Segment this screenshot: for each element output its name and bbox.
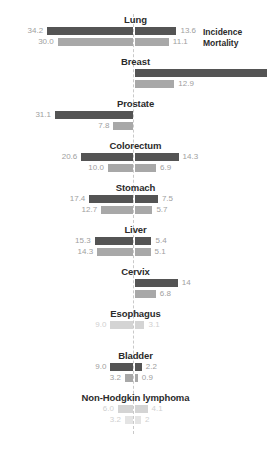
bar-bladder-inc-right bbox=[135, 363, 142, 371]
group-title-lung: Lung bbox=[0, 14, 271, 25]
value-label-esophagus-inc-right: 3.1 bbox=[148, 320, 159, 330]
value-label-colorectum-inc-left: 20.6 bbox=[19, 152, 77, 162]
bar-colorectum-mor-right bbox=[135, 164, 156, 172]
bar-liver-mor-left bbox=[97, 248, 133, 256]
bar-colorectum-inc-right bbox=[135, 153, 179, 161]
value-label-lung-mor-left: 30.0 bbox=[0, 37, 54, 47]
group-title-esophagus: Esophagus bbox=[0, 308, 271, 319]
bar-row-prostate-inc: 31.1 bbox=[0, 111, 271, 120]
bar-row-stomach-inc: 17.47.5 bbox=[0, 195, 271, 204]
bar-colorectum-mor-left bbox=[108, 164, 133, 172]
value-label-liver-inc-right: 5.4 bbox=[155, 236, 166, 246]
value-label-bladder-inc-right: 2.2 bbox=[146, 362, 157, 372]
value-label-colorectum-inc-right: 14.3 bbox=[183, 152, 199, 162]
bar-cervix-mor-right bbox=[135, 290, 156, 298]
value-label-nhl-mor-right: 2 bbox=[145, 415, 149, 425]
bar-colorectum-inc-left bbox=[81, 153, 133, 161]
value-label-bladder-inc-left: 9.0 bbox=[48, 362, 106, 372]
group-title-stomach: Stomach bbox=[0, 182, 271, 193]
bar-row-stomach-mor: 12.75.7 bbox=[0, 206, 271, 215]
bar-nhl-mor-left bbox=[125, 416, 133, 424]
bar-row-lung-mor: 30.011.1 bbox=[0, 38, 271, 47]
bar-row-colorectum-inc: 20.614.3 bbox=[0, 153, 271, 162]
diverging-bar-chart: Incidence Mortality Lung34.213.630.011.1… bbox=[0, 0, 271, 450]
bar-lung-inc-left bbox=[47, 27, 133, 35]
value-label-lung-inc-right: 13.6 bbox=[180, 26, 196, 36]
bar-row-bladder-inc: 9.02.2 bbox=[0, 363, 271, 372]
bar-lung-mor-right bbox=[135, 38, 169, 46]
value-label-stomach-inc-left: 17.4 bbox=[27, 194, 85, 204]
value-label-prostate-inc-left: 31.1 bbox=[0, 110, 51, 120]
bar-row-colorectum-mor: 10.06.9 bbox=[0, 164, 271, 173]
bar-row-breast-inc: 43.3 bbox=[0, 69, 271, 78]
bar-stomach-mor-left bbox=[101, 206, 133, 214]
value-label-bladder-mor-left: 3.2 bbox=[63, 373, 121, 383]
group-title-liver: Liver bbox=[0, 224, 271, 235]
bar-nhl-inc-right bbox=[135, 405, 148, 413]
bar-liver-mor-right bbox=[135, 248, 151, 256]
group-title-cervix: Cervix bbox=[0, 266, 271, 277]
value-label-lung-inc-left: 34.2 bbox=[0, 26, 43, 36]
bar-liver-inc-left bbox=[95, 237, 133, 245]
value-label-cervix-mor-right: 6.8 bbox=[160, 289, 171, 299]
group-title-nhl: Non-Hodgkin lymphoma bbox=[0, 392, 271, 403]
bar-stomach-mor-right bbox=[135, 206, 152, 214]
group-title-prostate: Prostate bbox=[0, 98, 271, 109]
bar-stomach-inc-left bbox=[89, 195, 133, 203]
value-label-liver-mor-left: 14.3 bbox=[35, 247, 93, 257]
bar-bladder-inc-left bbox=[110, 363, 133, 371]
bar-row-liver-inc: 15.35.4 bbox=[0, 237, 271, 246]
bar-row-cervix-inc: 14 bbox=[0, 279, 271, 288]
bar-bladder-mor-left bbox=[125, 374, 133, 382]
bar-row-nhl-inc: 6.04.1 bbox=[0, 405, 271, 414]
bar-row-esophagus-mor bbox=[0, 332, 271, 341]
bar-breast-inc-right bbox=[135, 69, 267, 77]
value-label-cervix-inc-right: 14 bbox=[182, 278, 191, 288]
value-label-colorectum-mor-right: 6.9 bbox=[160, 163, 171, 173]
bar-prostate-mor-left bbox=[113, 122, 133, 130]
bar-nhl-inc-left bbox=[118, 405, 133, 413]
bar-row-liver-mor: 14.35.1 bbox=[0, 248, 271, 257]
bar-nhl-mor-right bbox=[135, 416, 141, 424]
bar-row-lung-inc: 34.213.6 bbox=[0, 27, 271, 36]
bar-row-bladder-mor: 3.20.9 bbox=[0, 374, 271, 383]
value-label-prostate-mor-left: 7.8 bbox=[51, 121, 109, 131]
value-label-colorectum-mor-left: 10.0 bbox=[46, 163, 104, 173]
value-label-liver-inc-left: 15.3 bbox=[33, 236, 91, 246]
value-label-lung-mor-right: 11.1 bbox=[173, 37, 188, 47]
value-label-nhl-mor-left: 3.2 bbox=[63, 415, 121, 425]
bar-breast-mor-right bbox=[135, 80, 174, 88]
group-title-bladder: Bladder bbox=[0, 350, 271, 361]
value-label-liver-mor-right: 5.1 bbox=[155, 247, 166, 257]
bar-esophagus-inc-left bbox=[110, 321, 133, 329]
group-title-breast: Breast bbox=[0, 56, 271, 67]
bar-liver-inc-right bbox=[135, 237, 151, 245]
bar-lung-inc-right bbox=[135, 27, 176, 35]
value-label-nhl-inc-left: 6.0 bbox=[56, 404, 114, 414]
bar-bladder-mor-right bbox=[135, 374, 138, 382]
bar-row-esophagus-inc: 9.03.1 bbox=[0, 321, 271, 330]
bar-row-breast-mor: 12.9 bbox=[0, 80, 271, 89]
bar-stomach-inc-right bbox=[135, 195, 158, 203]
value-label-stomach-mor-right: 5.7 bbox=[156, 205, 167, 215]
bar-esophagus-inc-right bbox=[135, 321, 144, 329]
bar-row-prostate-mor: 7.8 bbox=[0, 122, 271, 131]
value-label-bladder-mor-right: 0.9 bbox=[142, 373, 153, 383]
group-title-colorectum: Colorectum bbox=[0, 140, 271, 151]
bar-prostate-inc-left bbox=[55, 111, 133, 119]
value-label-breast-mor-right: 12.9 bbox=[178, 79, 194, 89]
bar-lung-mor-left bbox=[58, 38, 133, 46]
value-label-stomach-mor-left: 12.7 bbox=[39, 205, 97, 215]
value-label-nhl-inc-right: 4.1 bbox=[152, 404, 163, 414]
bar-row-nhl-mor: 3.22 bbox=[0, 416, 271, 425]
value-label-stomach-inc-right: 7.5 bbox=[162, 194, 173, 204]
bar-row-cervix-mor: 6.8 bbox=[0, 290, 271, 299]
value-label-esophagus-inc-left: 9.0 bbox=[48, 320, 106, 330]
bar-cervix-inc-right bbox=[135, 279, 178, 287]
